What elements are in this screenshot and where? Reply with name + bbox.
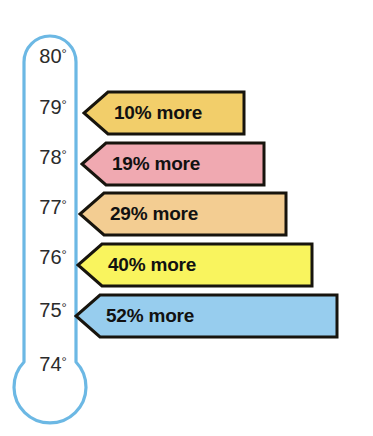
temp-tick-76: 76°	[22, 247, 84, 267]
bar-19-percent: 19% more	[80, 141, 266, 187]
degree-symbol: °	[62, 354, 67, 369]
bar-40-percent: 40% more	[76, 242, 314, 288]
degree-symbol: °	[62, 46, 67, 61]
bar-10-percent-label: 10% more	[114, 90, 202, 136]
degree-symbol: °	[62, 247, 67, 262]
temp-tick-74: 74°	[22, 354, 84, 374]
degree-symbol: °	[62, 197, 67, 212]
thermometer-percent-more-infographic: 80° 79° 78° 77° 76° 75° 74° 10% more19% …	[0, 0, 373, 436]
bar-52-percent: 52% more	[74, 293, 339, 339]
temp-tick-78: 78°	[22, 147, 84, 167]
bar-29-percent-label: 29% more	[110, 191, 198, 237]
degree-symbol: °	[62, 147, 67, 162]
bar-52-percent-label: 52% more	[106, 293, 194, 339]
temp-tick-77: 77°	[22, 197, 84, 217]
bar-29-percent: 29% more	[78, 191, 288, 237]
bar-40-percent-label: 40% more	[108, 242, 196, 288]
temp-tick-80: 80°	[22, 46, 84, 66]
degree-symbol: °	[62, 97, 67, 112]
bar-10-percent: 10% more	[82, 90, 246, 136]
temp-tick-79: 79°	[22, 97, 84, 117]
bar-19-percent-label: 19% more	[112, 141, 200, 187]
degree-symbol: °	[62, 300, 67, 315]
